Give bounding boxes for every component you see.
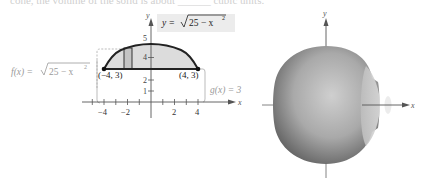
- y-axis-label: y: [145, 11, 150, 20]
- x-axis-arrow-icon: [228, 100, 236, 105]
- f-bracket-lower: [97, 60, 100, 103]
- y-tick-2: 2: [143, 76, 147, 85]
- f-label-radicand: 25 − x: [49, 67, 74, 77]
- y-tick-5: 5: [143, 34, 147, 43]
- y-tick-1: 1: [143, 87, 147, 96]
- representative-rectangle: [124, 48, 132, 69]
- curve-label-exp: 2: [222, 15, 225, 21]
- solid-cap: [361, 66, 380, 146]
- y-axis-label: y: [322, 9, 327, 18]
- y-axis-arrow-icon: [324, 18, 329, 26]
- f-label-prefix: f(x) =: [11, 67, 33, 78]
- x-axis-label: x: [237, 98, 242, 107]
- x-axis-label: x: [410, 101, 415, 110]
- x-tick-neg2: −2: [121, 107, 130, 117]
- point-left-label: (−4, 3): [98, 70, 123, 80]
- x-tick-4: 4: [195, 107, 200, 117]
- curve-label-radicand: 25 − x: [189, 18, 214, 28]
- point-right-label: (4, 3): [179, 70, 199, 80]
- curve-label-prefix: y =: [161, 18, 175, 28]
- f-function-label: f(x) = 25 − x 2: [11, 63, 90, 78]
- figure-canvas: y x 5 4 2 1 −4 −2 2 4 (−4, 3) (4, 3) y =…: [0, 0, 422, 187]
- x-axis-arrow-icon: [402, 103, 410, 108]
- x-tick-neg4: −4: [98, 107, 108, 117]
- g-bracket: [200, 69, 205, 102]
- y-tick-4: 4: [143, 53, 147, 62]
- x-tick-2: 2: [172, 107, 176, 117]
- left-graph: y x 5 4 2 1 −4 −2 2 4 (−4, 3) (4, 3) y =…: [11, 11, 242, 118]
- g-function-label: g(x) = 3: [210, 85, 241, 96]
- right-solid-figure: y x: [262, 9, 415, 178]
- f-label-exp: 2: [84, 64, 87, 70]
